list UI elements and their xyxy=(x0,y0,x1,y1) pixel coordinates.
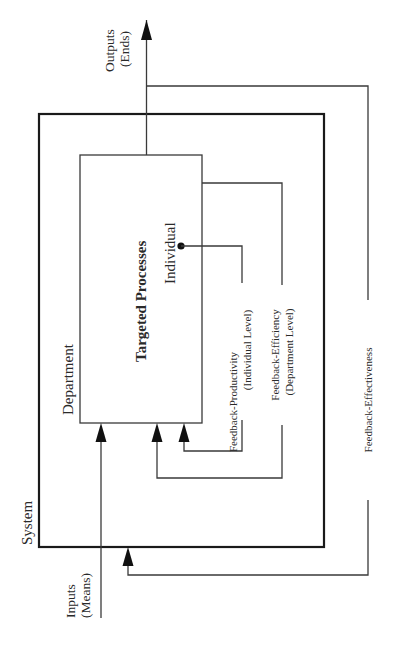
feedback-productivity-sub-label: (Individual Level) xyxy=(241,310,254,391)
effectiveness-arrowhead-icon xyxy=(123,547,134,566)
individual-label: Individual xyxy=(162,222,178,284)
system-label: System xyxy=(19,500,35,545)
efficiency-arrowhead-icon xyxy=(152,423,163,442)
feedback-productivity-loop xyxy=(181,246,242,283)
feedback-efficiency-label: Feedback-Efficiency xyxy=(269,309,281,401)
outputs-sub-label: (Ends) xyxy=(117,31,132,67)
feedback-effectiveness-loop xyxy=(147,86,369,300)
targeted-processes-label: Targeted Processes xyxy=(133,241,149,362)
feedback-productivity-label: Feedback-Productivity xyxy=(227,351,239,452)
inputs-label: Inputs xyxy=(63,584,78,618)
feedback-effectiveness-label: Feedback-Effectiveness xyxy=(362,348,374,453)
input-arrowhead-icon xyxy=(96,423,107,442)
feedback-effectiveness-loop-lower xyxy=(128,500,368,575)
feedback-efficiency-sub-label: (Department Level) xyxy=(283,308,296,395)
system-box xyxy=(39,114,324,547)
productivity-arrowhead-icon xyxy=(179,423,190,442)
outputs-label: Outputs xyxy=(102,29,117,72)
department-label: Department xyxy=(60,343,76,415)
inputs-sub-label: (Means) xyxy=(78,573,93,618)
output-arrowhead-icon xyxy=(141,20,152,40)
systems-diagram: Outputs (Ends) Inputs (Means) System Dep… xyxy=(0,0,394,648)
